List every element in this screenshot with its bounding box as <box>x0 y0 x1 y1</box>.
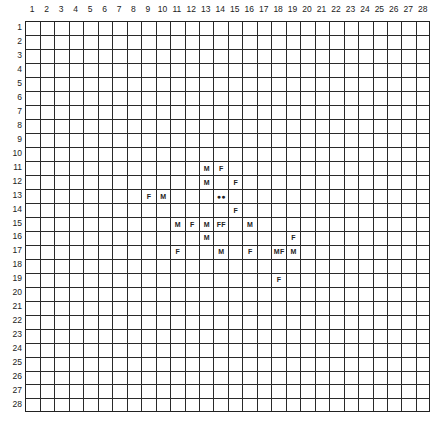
grid-line-horizontal <box>26 384 429 385</box>
column-label: 6 <box>97 4 111 14</box>
grid-line-horizontal <box>26 119 429 120</box>
column-label: 23 <box>343 4 357 14</box>
row-label: 26 <box>0 370 22 384</box>
cell-mark: F <box>243 245 257 259</box>
grid-line-horizontal <box>26 49 429 50</box>
column-label: 9 <box>141 4 155 14</box>
row-label: 28 <box>0 398 22 412</box>
row-label: 27 <box>0 384 22 398</box>
grid-line-horizontal <box>26 91 429 92</box>
row-label: 5 <box>0 77 22 91</box>
column-label: 2 <box>39 4 53 14</box>
row-label: 23 <box>0 328 22 342</box>
row-label: 25 <box>0 356 22 370</box>
grid-line-horizontal <box>26 287 429 288</box>
cell-mark: F <box>229 176 243 190</box>
grid: MFMFFM●●FMFMFFMMFFMFMFMF <box>25 21 430 412</box>
column-label: 22 <box>329 4 343 14</box>
column-label: 12 <box>184 4 198 14</box>
cell-mark: F <box>214 162 228 176</box>
row-label: 7 <box>0 105 22 119</box>
row-label: 6 <box>0 91 22 105</box>
row-label: 16 <box>0 230 22 244</box>
grid-line-horizontal <box>26 35 429 36</box>
cell-mark: MF <box>272 245 286 259</box>
column-label: 11 <box>170 4 184 14</box>
row-label: 4 <box>0 63 22 77</box>
column-label: 20 <box>300 4 314 14</box>
grid-line-horizontal <box>26 63 429 64</box>
column-label: 8 <box>126 4 140 14</box>
cell-mark: M <box>200 218 214 232</box>
column-label: 1 <box>25 4 39 14</box>
cell-mark: M <box>286 245 300 259</box>
row-label: 24 <box>0 342 22 356</box>
row-label: 17 <box>0 244 22 258</box>
grid-line-horizontal <box>26 301 429 302</box>
column-label: 27 <box>401 4 415 14</box>
column-label: 19 <box>285 4 299 14</box>
column-label: 14 <box>213 4 227 14</box>
column-label: 25 <box>372 4 386 14</box>
column-label: 3 <box>54 4 68 14</box>
cell-mark: M <box>200 162 214 176</box>
column-label: 10 <box>155 4 169 14</box>
cell-mark: M <box>156 190 170 204</box>
cell-mark: F <box>272 273 286 287</box>
row-label: 8 <box>0 119 22 133</box>
column-label: 26 <box>387 4 401 14</box>
grid-line-horizontal <box>26 133 429 134</box>
column-label: 4 <box>68 4 82 14</box>
row-label: 22 <box>0 314 22 328</box>
row-label: 18 <box>0 258 22 272</box>
column-label: 17 <box>256 4 270 14</box>
column-label: 13 <box>199 4 213 14</box>
grid-diagram: 1234567891011121314151617181920212223242… <box>0 0 437 423</box>
row-label: 3 <box>0 49 22 63</box>
grid-line-horizontal <box>26 357 429 358</box>
center-marker: ●● <box>214 190 228 204</box>
grid-line-horizontal <box>26 343 429 344</box>
cell-mark: M <box>171 218 185 232</box>
row-label: 1 <box>0 21 22 35</box>
grid-line-horizontal <box>26 371 429 372</box>
row-label: 21 <box>0 300 22 314</box>
cell-mark: M <box>200 176 214 190</box>
column-label: 21 <box>314 4 328 14</box>
column-label: 16 <box>242 4 256 14</box>
grid-line-horizontal <box>26 315 429 316</box>
cell-mark: M <box>200 231 214 245</box>
grid-line-horizontal <box>26 77 429 78</box>
column-label: 15 <box>228 4 242 14</box>
row-label: 14 <box>0 203 22 217</box>
column-label: 18 <box>271 4 285 14</box>
cell-mark: F <box>229 204 243 218</box>
row-label: 9 <box>0 133 22 147</box>
row-label: 11 <box>0 161 22 175</box>
column-label: 28 <box>416 4 430 14</box>
cell-mark: F <box>286 231 300 245</box>
cell-mark: M <box>243 218 257 232</box>
cell-mark: F <box>171 245 185 259</box>
row-label: 19 <box>0 272 22 286</box>
cell-mark: M <box>214 245 228 259</box>
grid-line-horizontal <box>26 398 429 399</box>
cell-mark: F <box>185 218 199 232</box>
row-label: 20 <box>0 286 22 300</box>
row-label: 15 <box>0 217 22 231</box>
column-label: 5 <box>83 4 97 14</box>
grid-line-horizontal <box>26 329 429 330</box>
grid-line-horizontal <box>26 273 429 274</box>
grid-line-horizontal <box>26 147 429 148</box>
row-label: 12 <box>0 175 22 189</box>
column-label: 7 <box>112 4 126 14</box>
row-label: 2 <box>0 35 22 49</box>
grid-line-horizontal <box>26 105 429 106</box>
row-label: 13 <box>0 189 22 203</box>
column-label: 24 <box>358 4 372 14</box>
cell-mark: FF <box>214 218 228 232</box>
cell-mark: F <box>142 190 156 204</box>
row-label: 10 <box>0 147 22 161</box>
